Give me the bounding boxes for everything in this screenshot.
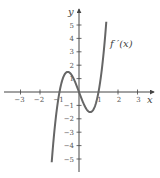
y-tick-label: −4 [64,142,75,150]
y-tick-label: 5 [70,22,74,30]
y-tick-label: 4 [70,35,75,43]
y-tick-label: −1 [64,102,74,110]
y-tick-label: −2 [64,115,74,123]
x-tick-label: 3 [136,96,140,104]
x-tick-label: 2 [117,96,121,104]
x-tick-label: −2 [34,96,44,104]
y-axis-label: y [67,6,74,17]
y-tick-label: −5 [64,156,74,164]
curve-label: f ′(x) [109,38,133,49]
derivative-graph: −3−2−1123−5−4−3−2−112345 x y f ′(x) [0,0,160,178]
y-tick-label: 3 [70,48,74,56]
x-axis-label: x [147,94,153,105]
y-tick-label: −3 [64,129,74,137]
x-tick-label: −3 [14,96,24,104]
y-tick-label: 2 [70,62,74,70]
